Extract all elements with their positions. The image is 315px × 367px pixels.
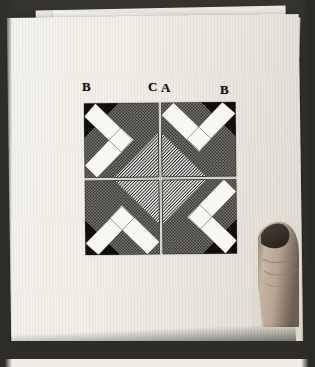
label-c: C [148, 79, 158, 95]
left-vignette [0, 0, 12, 367]
label-b-left: B [82, 79, 91, 95]
label-b-right: B [220, 82, 229, 98]
pointing-finger [252, 215, 298, 323]
bottom-paper-edge [0, 359, 315, 367]
right-vignette [301, 0, 315, 367]
photo-stage: B C A B [0, 0, 315, 367]
label-a: A [161, 80, 171, 96]
